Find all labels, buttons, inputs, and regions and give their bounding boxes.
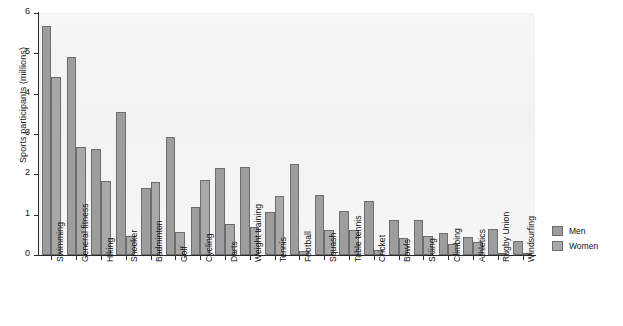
bar-men-squash xyxy=(315,195,325,255)
x-tick-mark xyxy=(423,256,424,260)
bar-men-climbing xyxy=(439,233,449,255)
y-tick-label: 2 xyxy=(25,167,30,177)
y-tick-label: 6 xyxy=(25,6,30,16)
bar-group xyxy=(141,13,160,255)
bar-men-hiking xyxy=(91,149,101,255)
x-label-snooker: Snooker xyxy=(129,230,139,262)
x-tick-mark xyxy=(51,256,52,260)
legend-label: Men xyxy=(569,226,586,236)
bar-men-football xyxy=(290,164,300,255)
x-label-bowls: Bowls xyxy=(402,239,412,262)
x-label-swimming: Swimming xyxy=(55,222,65,262)
chart-figure: Sports participants (millions) 0123456 S… xyxy=(0,0,623,326)
bar-group xyxy=(265,13,284,255)
x-tick-mark xyxy=(448,256,449,260)
bar-men-athletics xyxy=(463,237,473,255)
x-tick-mark xyxy=(200,256,201,260)
x-label-athletics: Athletics xyxy=(477,229,487,262)
y-tick-label: 0 xyxy=(25,248,30,258)
bar-men-windsurfing xyxy=(513,241,523,255)
x-tick-mark xyxy=(374,256,375,260)
bar-men-swimming xyxy=(42,26,52,255)
x-label-squash: Squash xyxy=(328,233,338,262)
bar-men-tennis xyxy=(265,212,275,255)
bar-group xyxy=(439,13,458,255)
bar-group xyxy=(414,13,433,255)
x-label-skiing: Skiing xyxy=(427,238,437,262)
bar-group xyxy=(315,13,334,255)
y-tick-label: 5 xyxy=(25,46,30,56)
bar-men-badminton xyxy=(141,188,151,255)
bar-group xyxy=(191,13,210,255)
bar-men-rugby-union xyxy=(488,229,498,255)
x-label-tennis: Tennis xyxy=(278,237,288,262)
bar-group xyxy=(215,13,234,255)
legend-swatch-icon xyxy=(552,226,563,236)
x-tick-mark xyxy=(151,256,152,260)
x-tick-mark xyxy=(399,256,400,260)
x-tick-mark xyxy=(299,256,300,260)
bar-group xyxy=(91,13,110,255)
x-label-badminton: Badminton xyxy=(154,220,164,262)
y-tick-label: 3 xyxy=(25,127,30,137)
x-label-general-fitness: General fitness xyxy=(80,203,90,262)
bar-group xyxy=(166,13,185,255)
x-tick-mark xyxy=(225,256,226,260)
bar-group xyxy=(116,13,135,255)
bar-series-container xyxy=(39,13,535,255)
x-tick-mark xyxy=(175,256,176,260)
bar-men-bowls xyxy=(389,220,399,255)
x-tick-mark xyxy=(250,256,251,260)
x-label-windsurfing: Windsurfing xyxy=(526,216,536,262)
chart-legend: MenWomen xyxy=(552,224,598,254)
x-label-darts: Darts xyxy=(229,241,239,262)
x-tick-mark xyxy=(473,256,474,260)
bar-men-cycling xyxy=(191,207,201,255)
x-tick-mark xyxy=(126,256,127,260)
x-label-hiking: Hiking xyxy=(105,238,115,262)
x-label-cycling: Cycling xyxy=(204,233,214,262)
x-tick-mark xyxy=(101,256,102,260)
x-label-rugby-union: Rugby Union xyxy=(501,212,511,262)
legend-item-men[interactable]: Men xyxy=(552,224,598,237)
x-label-golf: Golf xyxy=(179,246,189,262)
x-tick-mark xyxy=(523,256,524,260)
bar-men-table-tennis xyxy=(339,211,349,255)
x-tick-mark xyxy=(349,256,350,260)
y-tick-label: 4 xyxy=(25,87,30,97)
bar-men-golf xyxy=(166,137,176,255)
bar-men-darts xyxy=(215,168,225,255)
bar-men-skiing xyxy=(414,220,424,255)
legend-item-women[interactable]: Women xyxy=(552,239,598,252)
x-label-climbing: Climbing xyxy=(452,228,462,262)
x-label-football: Football xyxy=(303,231,313,262)
bar-group xyxy=(290,13,309,255)
x-tick-mark xyxy=(498,256,499,260)
y-tick-mark xyxy=(34,255,39,256)
bar-group xyxy=(42,13,61,255)
y-tick-label: 1 xyxy=(25,208,30,218)
bar-men-general-fitness xyxy=(67,57,77,255)
bar-men-weight-training xyxy=(240,167,250,255)
x-tick-mark xyxy=(324,256,325,260)
bar-group xyxy=(463,13,482,255)
bar-group xyxy=(364,13,383,255)
bar-men-cricket xyxy=(364,201,374,255)
legend-label: Women xyxy=(569,241,598,251)
x-label-cricket: Cricket xyxy=(377,235,387,262)
x-tick-mark xyxy=(76,256,77,260)
legend-swatch-icon xyxy=(552,241,563,251)
bar-group xyxy=(389,13,408,255)
x-label-table-tennis: Table tennis xyxy=(353,215,363,262)
bar-men-snooker xyxy=(116,112,126,255)
x-label-weight-training: Weight training xyxy=(253,204,263,262)
x-tick-mark xyxy=(275,256,276,260)
